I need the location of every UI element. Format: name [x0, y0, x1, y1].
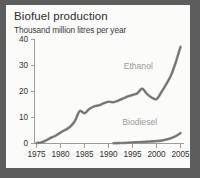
x-tick-label-2005: 2005 — [171, 150, 190, 159]
series-lines — [37, 47, 181, 143]
x-tick-label-1995: 1995 — [123, 150, 142, 159]
y-tick-label-20: 20 — [19, 87, 29, 96]
x-tick-label-1975: 1975 — [27, 150, 46, 159]
x-axis: 1975 1980 1985 1990 1995 2000 2005 — [27, 144, 190, 160]
y-tick-label-10: 10 — [19, 113, 29, 122]
x-tick-label-1980: 1980 — [51, 150, 70, 159]
y-tick-label-30: 30 — [19, 61, 29, 70]
y-axis-ticks — [31, 39, 35, 143]
x-tick-label-2000: 2000 — [147, 150, 166, 159]
line-chart-plot: 40 30 20 10 0 1975 1980 1 — [6, 33, 190, 168]
x-tick-label-1990: 1990 — [99, 150, 118, 159]
y-tick-label-40: 40 — [19, 35, 29, 44]
y-axis: 40 30 20 10 0 — [19, 35, 35, 148]
series-label-biodiesel: Biodiesel — [122, 117, 157, 127]
series-line-ethanol — [37, 47, 181, 143]
chart-title: Biofuel production — [14, 10, 108, 22]
chart-card: Biofuel production Thousand million litr… — [6, 5, 190, 168]
x-tick-label-1985: 1985 — [75, 150, 94, 159]
x-axis-ticks — [37, 144, 181, 148]
series-label-ethanol: Ethanol — [124, 61, 153, 71]
y-tick-label-0: 0 — [23, 139, 28, 148]
series-annotations: Ethanol Biodiesel — [122, 61, 157, 127]
figure-root: Biofuel production Thousand million litr… — [0, 0, 200, 178]
